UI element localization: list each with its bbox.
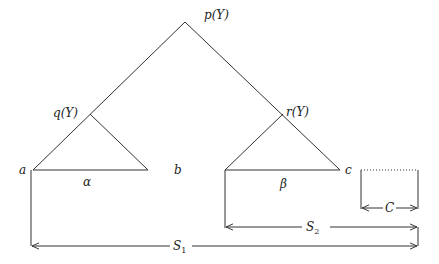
root-right-edge	[185, 22, 340, 170]
s1-label: S1	[173, 239, 186, 255]
beta-label: β	[279, 177, 287, 191]
c-width-label: C	[385, 201, 394, 215]
tree-diagram: p(Y) q(Y) r(Y) a b c α β C S2 S1	[0, 0, 439, 264]
root-left-edge	[33, 22, 185, 170]
diagram-svg: p(Y) q(Y) r(Y) a b c α β C S2 S1	[0, 0, 439, 264]
leaf-c-label: c	[345, 163, 352, 177]
alpha-triangle-right-edge	[90, 114, 148, 170]
leaf-a-label: a	[19, 163, 26, 177]
leaf-b-label: b	[174, 163, 182, 177]
right-node-label: r(Y)	[286, 105, 309, 119]
s2-label: S2	[306, 220, 319, 236]
root-label: p(Y)	[204, 8, 229, 22]
left-node-label: q(Y)	[53, 106, 78, 120]
alpha-label: α	[83, 175, 91, 189]
beta-triangle-left-edge	[225, 114, 283, 170]
